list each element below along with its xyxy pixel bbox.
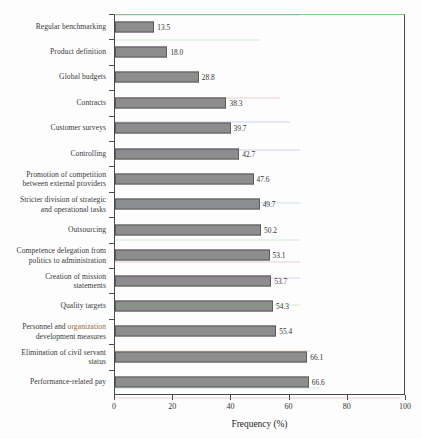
y-axis-tick	[109, 166, 114, 167]
category-label: Personnel and organization development m…	[0, 322, 106, 341]
bar-value-label: 42.7	[242, 149, 255, 158]
x-axis-tick-label: 0	[94, 402, 134, 411]
y-axis-tick	[109, 90, 114, 91]
bar-row: Regular benchmarking13.5	[0, 14, 422, 39]
x-axis-title: Frequency (%)	[114, 419, 405, 429]
y-axis-tick	[109, 39, 114, 40]
category-label: Elimination of civil servant status	[0, 347, 106, 366]
y-axis-tick	[109, 268, 114, 269]
x-axis-tick-label: 20	[152, 402, 192, 411]
category-label: Regular benchmarking	[0, 22, 106, 31]
bar	[115, 72, 199, 83]
bar-row: Customer surveys39.7	[0, 116, 422, 141]
bar-value-label: 54.3	[276, 302, 289, 311]
bar-row: Stricter division of strategic and opera…	[0, 192, 422, 217]
x-axis-tick	[114, 395, 115, 400]
bar	[115, 224, 261, 235]
bar-row: Elimination of civil servant status66.1	[0, 344, 422, 369]
bar-value-label: 13.5	[157, 22, 170, 31]
category-label: Quality targets	[0, 301, 106, 310]
bar-value-label: 38.3	[229, 98, 242, 107]
bar-value-label: 50.2	[264, 225, 277, 234]
highlighted-word: organization	[68, 322, 106, 331]
x-axis-tick	[347, 395, 348, 400]
bar-rows: Regular benchmarking13.5Product definiti…	[0, 14, 422, 395]
y-axis-tick	[109, 370, 114, 371]
bar	[115, 351, 307, 362]
category-label: Promotion of competition between externa…	[0, 170, 106, 189]
x-axis-tick	[289, 395, 290, 400]
bar-value-label: 47.6	[257, 175, 270, 184]
category-label: Outsourcing	[0, 225, 106, 234]
bar	[115, 123, 231, 134]
bar	[115, 148, 239, 159]
bar-value-label: 55.4	[279, 327, 292, 336]
x-axis-tick	[405, 395, 406, 400]
y-axis-tick	[109, 14, 114, 15]
bar	[115, 47, 167, 58]
bar-row: Performance-related pay66.6	[0, 370, 422, 395]
bar	[115, 326, 276, 337]
y-axis-tick	[109, 141, 114, 142]
bar	[115, 21, 154, 32]
bar-row: Quality targets54.3	[0, 293, 422, 318]
y-axis-tick	[109, 319, 114, 320]
bar	[115, 174, 254, 185]
x-axis-ticks: 020406080100	[0, 395, 422, 435]
category-label: Global budgets	[0, 73, 106, 82]
y-axis-tick	[109, 65, 114, 66]
category-label: Competence delegation from politics to a…	[0, 246, 106, 265]
y-axis-tick	[109, 243, 114, 244]
category-label: Product definition	[0, 47, 106, 56]
y-axis-tick	[109, 217, 114, 218]
x-axis-tick-label: 100	[385, 402, 422, 411]
y-axis-tick	[109, 116, 114, 117]
bar-value-label: 66.1	[310, 352, 323, 361]
bar-row: Promotion of competition between externa…	[0, 166, 422, 191]
category-label: Controlling	[0, 149, 106, 158]
x-axis-tick	[172, 395, 173, 400]
x-axis-tick-label: 80	[327, 402, 367, 411]
bar	[115, 199, 260, 210]
category-label: Stricter division of strategic and opera…	[0, 195, 106, 214]
bar-value-label: 28.8	[202, 73, 215, 82]
bar-row: Controlling42.7	[0, 141, 422, 166]
bar-value-label: 53.7	[274, 276, 287, 285]
bar-value-label: 18.0	[170, 48, 183, 57]
x-axis-tick	[230, 395, 231, 400]
y-axis-tick	[109, 344, 114, 345]
bar-row: Contracts38.3	[0, 90, 422, 115]
category-label: Customer surveys	[0, 124, 106, 133]
bar-chart: Regular benchmarking13.5Product definiti…	[0, 0, 422, 439]
bar-value-label: 53.1	[273, 251, 286, 260]
bar-value-label: 66.6	[312, 378, 325, 387]
bar-row: Product definition18.0	[0, 39, 422, 64]
bar-row: Creation of mission statements53.7	[0, 268, 422, 293]
bar-row: Global budgets28.8	[0, 65, 422, 90]
bar	[115, 275, 271, 286]
y-axis-tick	[109, 192, 114, 193]
bar-row: Competence delegation from politics to a…	[0, 243, 422, 268]
x-axis-tick-label: 60	[269, 402, 309, 411]
bar-value-label: 49.7	[263, 200, 276, 209]
bar-row: Outsourcing50.2	[0, 217, 422, 242]
x-axis-tick-label: 40	[210, 402, 250, 411]
category-label: Contracts	[0, 98, 106, 107]
category-label: Creation of mission statements	[0, 271, 106, 290]
bar-row: Personnel and organization development m…	[0, 319, 422, 344]
bar	[115, 250, 270, 261]
bar	[115, 301, 273, 312]
bar	[115, 97, 226, 108]
y-axis-tick	[109, 293, 114, 294]
bar	[115, 377, 309, 388]
category-label: Performance-related pay	[0, 378, 106, 387]
bar-value-label: 39.7	[234, 124, 247, 133]
